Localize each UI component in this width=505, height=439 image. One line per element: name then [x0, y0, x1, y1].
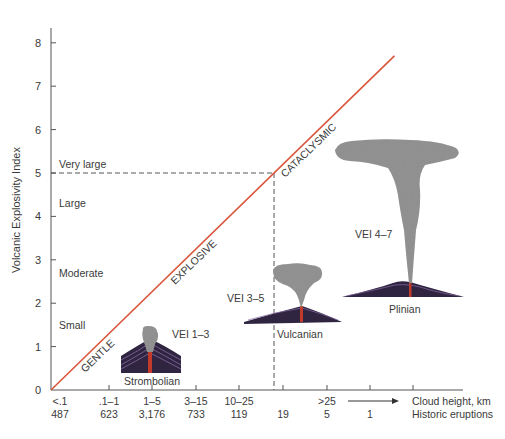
trend-label-gentle: GENTLE [78, 337, 117, 375]
cloud-height-label: 1–5 [143, 395, 161, 407]
y-tick-label: 1 [35, 341, 41, 353]
y-tick-label: 0 [35, 384, 41, 396]
vulcanian-label: Vulcanian [277, 328, 323, 340]
plinian-vei-label: VEI 4–7 [355, 228, 393, 240]
strombolian-label: Strombolian [124, 375, 180, 387]
y-axis-label: Volcanic Explosivity Index [10, 147, 22, 273]
trend-label-explosive: EXPLOSIVE [168, 237, 219, 287]
historic-eruptions-label: 1 [367, 408, 373, 420]
plinian-label: Plinian [389, 303, 421, 315]
vulcanian-cone [244, 306, 342, 324]
historic-eruptions-label: 119 [231, 408, 248, 420]
historic-eruptions-label: 3,176 [139, 408, 165, 420]
historic-eruptions-label: 733 [187, 408, 205, 420]
plinian-plume [335, 139, 459, 283]
plinian-volcano-illustration [335, 139, 464, 297]
historic-eruptions-label: 623 [100, 408, 118, 420]
vulcanian-plume [273, 263, 322, 308]
y-tick-label: 7 [35, 80, 41, 92]
magnitude-label: Small [59, 319, 85, 331]
y-tick-label: 8 [35, 37, 41, 49]
x-row-label-historic-eruptions: Historic eruptions [412, 408, 493, 420]
cloud-height-label: .1–1 [99, 395, 120, 407]
historic-eruptions-label: 19 [277, 408, 289, 420]
y-tick-label: 4 [35, 210, 41, 222]
increasing-arrow [348, 398, 399, 404]
y-tick-label: 2 [35, 297, 41, 309]
strombolian-vei-label: VEI 1–3 [172, 328, 210, 340]
cloud-height-label: 10–25 [224, 395, 253, 407]
magnitude-label: Large [59, 197, 86, 209]
historic-eruptions-label: 5 [324, 408, 330, 420]
plinian-cone [342, 281, 464, 297]
y-tick-label: 6 [35, 124, 41, 136]
trend-label-cataclysmic: CATACLYSMIC [278, 120, 339, 179]
cloud-height-label: 3–15 [184, 395, 208, 407]
explosivity-trend-line [51, 56, 394, 390]
x-row-label-cloud-height: Cloud height, km [412, 395, 491, 407]
magnitude-label: Moderate [59, 267, 104, 279]
cloud-height-label: <.1 [53, 395, 68, 407]
magnitude-label: Very large [59, 158, 106, 170]
cloud-height-label: >25 [318, 395, 336, 407]
historic-eruptions-label: 487 [51, 408, 69, 420]
y-tick-label: 5 [35, 167, 41, 179]
y-tick-label: 3 [35, 254, 41, 266]
vulcanian-vei-label: VEI 3–5 [227, 292, 265, 304]
vei-diagram: 012345678 Volcanic Explosivity Index Ver… [0, 0, 505, 439]
